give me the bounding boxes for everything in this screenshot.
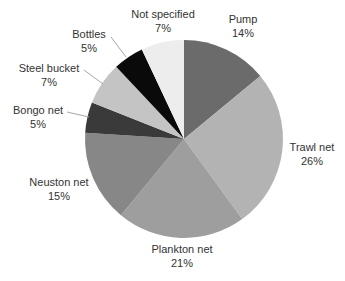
- slice-label-percent: 15%: [48, 190, 70, 202]
- slice-label-percent: 14%: [232, 27, 254, 39]
- slice-label-percent: 21%: [171, 257, 193, 269]
- pie-slices: [85, 40, 283, 238]
- slice-label-percent: 5%: [30, 118, 46, 130]
- slice-label-percent: 7%: [155, 22, 171, 34]
- leader-line-bottles: [111, 37, 126, 57]
- slice-label-percent: 26%: [301, 155, 323, 167]
- pie-chart: Pump14%Trawl net26%Plankton net21%Neusto…: [0, 0, 345, 281]
- slice-label-name: Neuston net: [29, 176, 88, 188]
- slice-label-percent: 7%: [41, 76, 57, 88]
- slice-label-name: Plankton net: [151, 243, 212, 255]
- slice-label-name: Trawl net: [290, 141, 335, 153]
- slice-label-neuston-net: Neuston net15%: [29, 176, 88, 202]
- slice-label-percent: 5%: [81, 42, 97, 54]
- slice-label-name: Bottles: [72, 28, 106, 40]
- slice-label-plankton-net: Plankton net21%: [151, 243, 212, 269]
- slice-label-name: Not specified: [131, 8, 195, 20]
- leader-line-bongo-net: [67, 112, 89, 117]
- slice-label-pump: Pump14%: [229, 13, 258, 39]
- slice-label-steel-bucket: Steel bucket7%: [19, 62, 80, 88]
- leader-line-steel-bucket: [84, 70, 103, 84]
- slice-label-not-specified: Not specified7%: [131, 8, 195, 34]
- slice-label-name: Pump: [229, 13, 258, 25]
- slice-label-trawl-net: Trawl net26%: [290, 141, 335, 167]
- slice-label-name: Steel bucket: [19, 62, 80, 74]
- slice-label-name: Bongo net: [13, 104, 63, 116]
- slice-label-bongo-net: Bongo net5%: [13, 104, 63, 130]
- slice-label-bottles: Bottles5%: [72, 28, 106, 54]
